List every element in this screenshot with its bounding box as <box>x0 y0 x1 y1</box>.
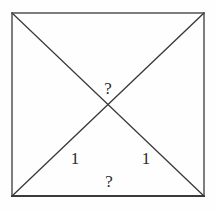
label-one-right: 1 <box>142 150 151 167</box>
geometry-figure: ? 1 1 ? <box>0 0 217 211</box>
label-question-top: ? <box>104 80 112 97</box>
geometry-group <box>12 13 204 196</box>
label-question-bottom: ? <box>105 173 113 190</box>
label-one-left: 1 <box>71 150 80 167</box>
